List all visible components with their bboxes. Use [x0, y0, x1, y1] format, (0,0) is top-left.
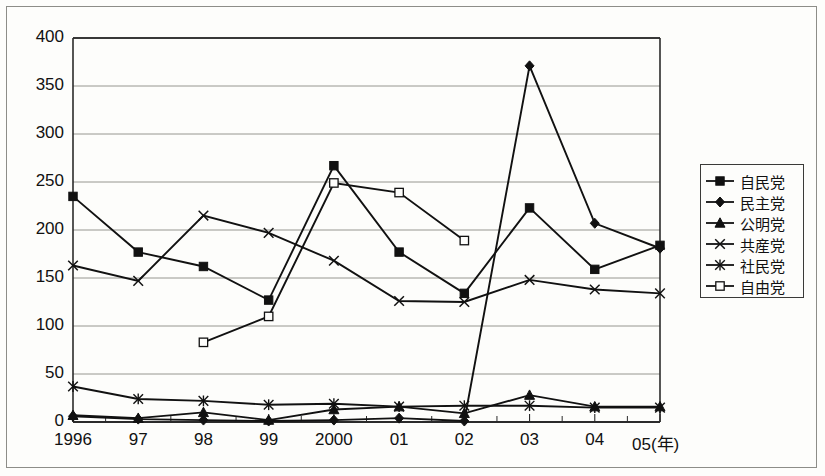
gridlines — [73, 38, 660, 422]
chart-screenshot: 050100150200250300350400 199697989920000… — [0, 0, 825, 476]
x-axis-tick-label: 2000 — [299, 430, 369, 450]
y-axis-tick-label: 200 — [12, 219, 64, 239]
legend-label: 共産党 — [735, 234, 785, 255]
legend-label: 社民党 — [735, 255, 785, 276]
x-axis-tick-label: 04 — [560, 430, 630, 450]
y-axis-tick-label: 250 — [12, 171, 64, 191]
y-axis-tick-label: 100 — [12, 315, 64, 335]
x-axis-tick-label: 99 — [234, 430, 304, 450]
legend-marker-filled-square — [705, 173, 735, 189]
x-axis-tick-label: 02 — [429, 430, 499, 450]
y-axis-tick-label: 400 — [12, 27, 64, 47]
y-axis-tick-label: 0 — [12, 411, 64, 431]
x-axis-tick-label: 01 — [364, 430, 434, 450]
series-0 — [69, 161, 664, 304]
legend-marker-filled-triangle — [705, 215, 735, 231]
legend-marker-open-square — [705, 278, 735, 294]
x-axis-tick-label: 97 — [103, 430, 173, 450]
y-axis-tick-label: 150 — [12, 267, 64, 287]
y-axis-tick-label: 50 — [12, 363, 64, 383]
data-series-layer — [68, 61, 665, 426]
y-axis-tick-label: 300 — [12, 123, 64, 143]
legend-label: 民主党 — [735, 192, 785, 213]
legend-item[interactable]: 民主党 — [705, 192, 799, 212]
legend-item[interactable]: 自由党 — [705, 276, 799, 296]
legend-marker-x-cross — [705, 236, 735, 252]
series-5 — [199, 179, 468, 347]
legend-label: 公明党 — [735, 213, 785, 234]
series-1 — [69, 61, 665, 426]
legend-item[interactable]: 公明党 — [705, 213, 799, 233]
chart-legend: 自民党 民主党 公明党 共産党 社民党 自由党 — [700, 164, 804, 298]
legend-label: 自民党 — [735, 171, 785, 192]
x-axis-tick-label: 98 — [168, 430, 238, 450]
x-axis-tick-label: 1996 — [38, 430, 108, 450]
legend-marker-asterisk — [705, 257, 735, 273]
y-axis-tick-label: 350 — [12, 75, 64, 95]
legend-item[interactable]: 共産党 — [705, 234, 799, 254]
x-axis-tick-label: 03 — [495, 430, 565, 450]
legend-item[interactable]: 社民党 — [705, 255, 799, 275]
legend-marker-filled-diamond — [705, 194, 735, 210]
series-3 — [68, 211, 665, 307]
legend-item[interactable]: 自民党 — [705, 171, 799, 191]
x-axis-tick-label: 05(年) — [632, 430, 742, 455]
legend-label: 自由党 — [735, 276, 785, 297]
